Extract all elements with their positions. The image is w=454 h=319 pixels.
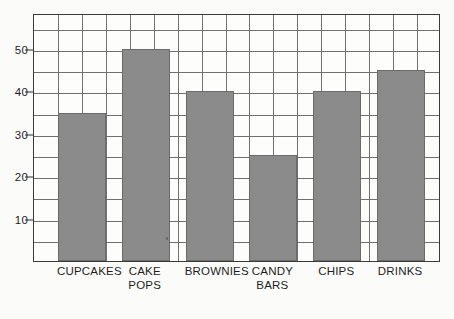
bar-chart: 1020304050 CUPCAKESCAKEPOPSBROWNIESCANDY… bbox=[0, 0, 454, 319]
bar bbox=[186, 91, 234, 261]
x-axis-tick-label-line: CUPCAKES bbox=[57, 264, 105, 278]
x-axis-tick-label-line: BARS bbox=[248, 278, 296, 292]
x-axis-tick-label-line: CHIPS bbox=[312, 264, 360, 278]
bar bbox=[58, 113, 106, 261]
x-axis-tick-label: CANDYBARS bbox=[248, 264, 296, 292]
bar bbox=[377, 70, 425, 261]
y-axis-tick-mark bbox=[25, 134, 33, 135]
x-axis-tick-label-line: BROWNIES bbox=[185, 264, 233, 278]
x-axis-tick-label: BROWNIES bbox=[185, 264, 233, 278]
bar bbox=[313, 91, 361, 261]
x-axis: CUPCAKESCAKEPOPSBROWNIESCANDYBARSCHIPSDR… bbox=[33, 264, 440, 314]
y-axis-tick-mark bbox=[25, 219, 33, 220]
x-axis-tick-label: DRINKS bbox=[376, 264, 424, 278]
x-axis-tick-label-line: CANDY bbox=[248, 264, 296, 278]
x-axis-tick-label: CHIPS bbox=[312, 264, 360, 278]
y-axis: 1020304050 bbox=[0, 14, 28, 262]
artifact-speck bbox=[166, 237, 168, 240]
bar bbox=[122, 49, 170, 261]
x-axis-tick-label: CUPCAKES bbox=[57, 264, 105, 278]
x-axis-tick-label: CAKEPOPS bbox=[121, 264, 169, 292]
x-axis-tick-label-line: CAKE bbox=[121, 264, 169, 278]
y-axis-tick-mark bbox=[25, 50, 33, 51]
bar bbox=[249, 155, 297, 261]
plot-area bbox=[33, 14, 440, 262]
x-axis-tick-label-line: DRINKS bbox=[376, 264, 424, 278]
y-axis-tick-mark bbox=[25, 92, 33, 93]
y-axis-tick-mark bbox=[25, 177, 33, 178]
x-axis-tick-label-line: POPS bbox=[121, 278, 169, 292]
bars bbox=[34, 15, 439, 261]
